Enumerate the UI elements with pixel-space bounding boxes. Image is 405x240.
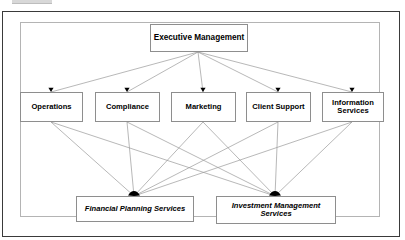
connector-client-support-to-financial-planning-services: [134, 122, 278, 196]
connector-executive-management-to-client-support: [198, 52, 278, 92]
node-investment-management-services[interactable]: Investment Management Services: [216, 196, 336, 224]
connector-compliance-to-investment-management-services: [127, 122, 275, 196]
node-financial-planning-services[interactable]: Financial Planning Services: [76, 196, 194, 222]
connector-marketing-to-financial-planning-services: [134, 122, 203, 196]
node-label-executive-management: Executive Management: [152, 33, 247, 42]
node-label-investment-management-services: Investment Management Services: [230, 202, 323, 219]
connector-client-support-to-investment-management-services: [275, 122, 278, 196]
connector-operations-to-investment-management-services: [51, 122, 275, 196]
node-marketing[interactable]: Marketing: [171, 92, 236, 122]
node-label-operations: Operations: [29, 103, 73, 112]
node-client-support[interactable]: Client Support: [246, 92, 311, 122]
node-information-services[interactable]: Information Services: [322, 92, 384, 122]
node-executive-management[interactable]: Executive Management: [150, 24, 248, 52]
connector-information-services-to-financial-planning-services: [134, 122, 352, 196]
node-compliance[interactable]: Compliance: [95, 92, 160, 122]
node-label-compliance: Compliance: [104, 103, 151, 112]
connector-operations-to-financial-planning-services: [51, 122, 134, 196]
node-operations[interactable]: Operations: [20, 92, 83, 122]
connector-executive-management-to-marketing: [198, 52, 203, 92]
diagram-canvas: Executive ManagementOperationsCompliance…: [0, 0, 405, 240]
node-label-client-support: Client Support: [250, 103, 306, 112]
connector-compliance-to-financial-planning-services: [127, 122, 134, 196]
connector-lines: [51, 52, 352, 196]
node-label-information-services: Information Services: [330, 99, 376, 116]
node-label-financial-planning-services: Financial Planning Services: [83, 205, 187, 214]
connector-information-services-to-investment-management-services: [275, 122, 352, 196]
connector-executive-management-to-information-services: [198, 52, 352, 92]
node-label-marketing: Marketing: [184, 103, 224, 112]
connector-executive-management-to-operations: [51, 52, 198, 92]
connector-marketing-to-investment-management-services: [203, 122, 275, 196]
connector-executive-management-to-compliance: [127, 52, 198, 92]
